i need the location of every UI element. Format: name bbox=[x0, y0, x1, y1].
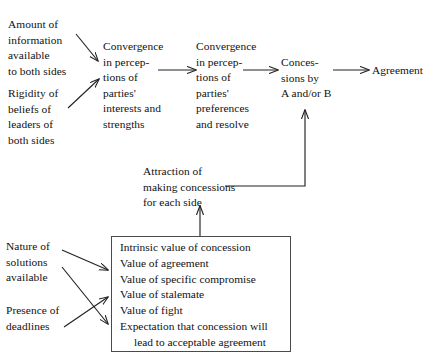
node-convergence-interests: Convergence in percep- tions of parties'… bbox=[103, 39, 175, 133]
list-item: Value of fight bbox=[120, 303, 290, 319]
list-item: lead to acceptable agreement bbox=[120, 335, 290, 351]
negotiation-flow-diagram: Amount of information available to both … bbox=[0, 0, 427, 363]
list-item: Expectation that concession will bbox=[120, 319, 290, 335]
node-rigidity-of-beliefs: Rigidity of beliefs of leaders of both s… bbox=[8, 86, 98, 148]
node-attraction-of-concessions: Attraction of making concessions for eac… bbox=[143, 164, 273, 211]
node-agreement: Agreement bbox=[372, 63, 427, 79]
list-item: Value of specific compromise bbox=[120, 272, 290, 288]
node-presence-of-deadlines: Presence of deadlines bbox=[6, 303, 84, 334]
node-amount-of-information: Amount of information available to both … bbox=[8, 17, 98, 79]
list-item: Intrinsic value of concession bbox=[120, 240, 290, 256]
node-concessions: Conces- sions by A and/or B bbox=[281, 55, 347, 102]
node-nature-of-solutions: Nature of solutions available bbox=[6, 239, 80, 286]
list-item: Value of stalemate bbox=[120, 287, 290, 303]
list-item: Value of agreement bbox=[120, 256, 290, 272]
concession-factors-list: Intrinsic value of concession Value of a… bbox=[120, 240, 290, 351]
node-convergence-preferences: Convergence in percep- tions of parties'… bbox=[196, 39, 268, 133]
